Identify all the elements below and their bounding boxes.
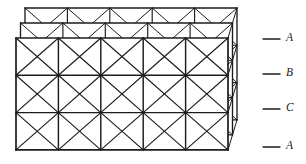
layer-label-a-0: A <box>286 32 293 44</box>
label-leader-lines-group <box>263 39 280 147</box>
layer-label-b-1: B <box>286 67 293 79</box>
layer-label-c-2: C <box>286 102 294 114</box>
lattice-planes-drawing <box>0 0 306 164</box>
lattice-plane-front <box>16 38 228 150</box>
stacked-planes-group <box>16 8 237 150</box>
layer-label-a-3: A <box>286 140 293 152</box>
lattice-stacking-figure: ABCA <box>0 0 306 164</box>
